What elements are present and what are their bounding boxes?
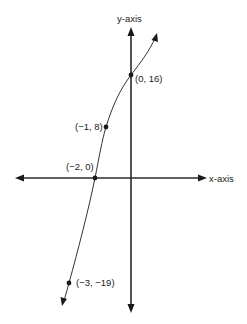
x-axis-left-arrow-icon xyxy=(15,175,24,182)
curve-upper-arrow-icon xyxy=(152,33,159,42)
point-label-neg2-0: (−2, 0) xyxy=(66,161,94,172)
y-axis: y-axis xyxy=(117,13,142,313)
point-label-neg1-8: (−1, 8) xyxy=(75,121,103,132)
point-label-neg3-neg19: (−3, −19) xyxy=(76,277,115,288)
y-axis-down-arrow-icon xyxy=(128,304,135,313)
function-graph: x-axis y-axis (0, 16) (−1, 8) (−2, 0) (−… xyxy=(0,0,247,324)
point-neg1-8: (−1, 8) xyxy=(75,121,108,132)
y-axis-label: y-axis xyxy=(117,13,142,24)
curve-lower-arrow-icon xyxy=(61,297,68,306)
x-axis-label: x-axis xyxy=(209,173,234,184)
point-neg3-neg19: (−3, −19) xyxy=(67,277,115,288)
y-axis-up-arrow-icon xyxy=(128,27,135,36)
point-label-0-16: (0, 16) xyxy=(135,73,162,84)
x-axis-right-arrow-icon xyxy=(198,175,207,182)
x-axis: x-axis xyxy=(15,173,234,184)
point-0-16: (0, 16) xyxy=(129,73,163,84)
